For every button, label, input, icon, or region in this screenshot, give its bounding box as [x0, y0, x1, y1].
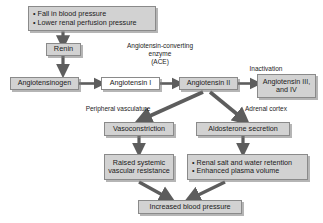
angiotensin-i-label: Angiotensin I	[110, 79, 152, 87]
renin-label: Renin	[54, 45, 73, 54]
arrow-renal-effects-to-increased-bp	[192, 182, 225, 198]
node-angiotensin-iii-iv: Angiotensin III, and IV	[257, 74, 316, 98]
node-raised-systemic-vascular-resistance: Raised systemic vascular resistance	[104, 154, 174, 180]
inactivation-label: Inactivation	[226, 65, 306, 73]
node-angiotensinogen: Angiotensinogen	[10, 77, 79, 90]
trigger-line-2: • Lower renal perfusion pressure	[33, 19, 137, 27]
renal-effects-line-2: • Enhanced plasma volume	[192, 167, 279, 175]
edge-label-adrenal-cortex: Adrenal cortex	[228, 105, 304, 113]
node-vasoconstriction: Vasoconstriction	[104, 122, 174, 136]
adrenal-cortex-label: Adrenal cortex	[228, 105, 304, 113]
angiotensin-iii-iv-line-2: and IV	[276, 86, 297, 94]
ace-line-3: (ACE)	[110, 58, 210, 66]
aldosterone-label: Aldosterone secretion	[208, 125, 278, 133]
node-angiotensin-i: Angiotensin I	[101, 77, 160, 90]
node-aldosterone-secretion: Aldosterone secretion	[196, 122, 290, 136]
node-angiotensin-ii: Angiotensin II	[179, 77, 238, 90]
arrow-raised-svr-to-increased-bp	[139, 182, 168, 198]
edge-label-peripheral-vasculature: Peripheral vasculature	[66, 105, 170, 113]
ace-line-1: Angiotensin-converting	[110, 42, 210, 50]
raised-svr-line-2: vascular resistance	[108, 167, 170, 175]
node-renal-effects: • Renal salt and water retention • Enhan…	[187, 154, 308, 180]
node-trigger-conditions: • Fall in blood pressure • Lower renal p…	[28, 6, 156, 31]
increased-bp-label: Increased blood pressure	[149, 203, 230, 211]
flowchart-canvas: • Fall in blood pressure • Lower renal p…	[0, 0, 323, 223]
edge-label-inactivation: Inactivation	[226, 65, 306, 73]
angiotensinogen-label: Angiotensinogen	[18, 79, 72, 87]
ace-line-2: enzyme	[110, 50, 210, 58]
node-renin: Renin	[46, 43, 81, 56]
vasoconstriction-label: Vasoconstriction	[113, 125, 165, 133]
edge-label-ace: Angiotensin-converting enzyme (ACE)	[110, 42, 210, 66]
node-increased-blood-pressure: Increased blood pressure	[138, 200, 242, 214]
peripheral-vasculature-label: Peripheral vasculature	[66, 105, 170, 113]
angiotensin-ii-label: Angiotensin II	[187, 79, 231, 87]
